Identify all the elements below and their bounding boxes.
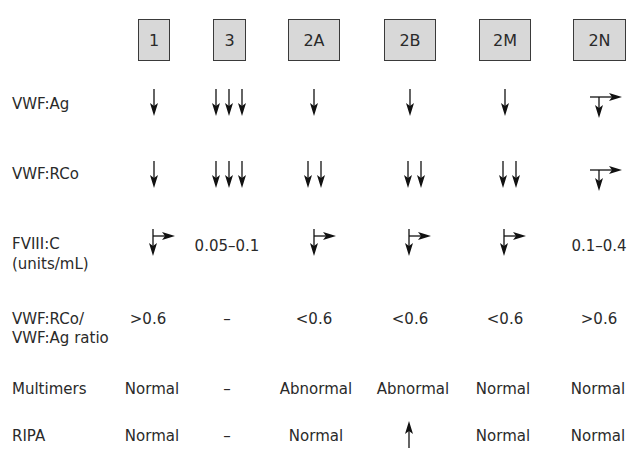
vwf-ag-type-1-decreased-icon [149,89,159,117]
multimers-type-3: – [223,380,231,399]
multimers-type-2b: Abnormal [377,380,449,399]
ratio-type-2a: <0.6 [296,310,332,329]
row-label-ripa: RIPA [12,427,45,446]
vwf-rco-type-2a-decreased-icon [303,161,327,189]
ripa-type-2b-increased-icon [404,421,414,449]
vwf-rco-type-2b-decreased-icon [403,161,427,189]
vwf-ag-type-3-markedly-decreased-icon [211,89,247,117]
header-type-2a: 2A [288,19,340,61]
ratio-type-2m: <0.6 [487,310,523,329]
vwf-ag-type-2b-decreased-icon [405,89,415,117]
row-label-ratio: VWF:RCo/ [12,310,84,329]
vwf-rco-type-1-decreased-icon [149,161,159,189]
row-label-vwf-rco: VWF:RCo [12,165,79,184]
header-type-3: 3 [213,19,246,61]
fviii-type-1-normal-or-decreased-icon [148,229,176,257]
row-label-vwf-ag: VWF:Ag [12,95,69,114]
ripa-type-3: – [223,427,231,446]
ripa-type-2m: Normal [476,427,530,446]
multimers-type-2n: Normal [571,380,625,399]
multimers-type-1: Normal [125,380,179,399]
vwf-ag-type-2n-normal-or-decreased-icon [590,92,624,120]
fviii-type-2b-normal-or-decreased-icon [404,229,432,257]
ratio-type-1: >0.6 [130,310,166,329]
fviii-type-2a-normal-or-decreased-icon [309,229,337,257]
row-label-ratio-2: VWF:Ag ratio [12,329,109,348]
header-type-1: 1 [138,19,170,61]
ratio-type-2b: <0.6 [392,310,428,329]
vwf-rco-type-2n-normal-or-decreased-icon [590,165,624,193]
fviii-type-3-value: 0.05–0.1 [195,237,260,256]
row-label-multimers: Multimers [12,380,87,399]
header-type-2m: 2M [479,19,531,61]
header-type-2n: 2N [573,19,626,61]
ripa-type-2n: Normal [571,427,625,446]
multimers-type-2m: Normal [476,380,530,399]
ripa-type-2a: Normal [289,427,343,446]
header-type-2b: 2B [384,19,436,61]
fviii-type-2n-value: 0.1–0.4 [571,237,626,256]
fviii-type-2m-normal-or-decreased-icon [499,229,527,257]
ratio-type-2n: >0.6 [581,310,617,329]
vwf-ag-type-2a-decreased-icon [309,89,319,117]
vwf-rco-type-3-markedly-decreased-icon [211,161,247,189]
row-label-fviii-c: FVIII:C [12,235,60,254]
ratio-type-3: – [223,310,231,329]
vwf-rco-type-2m-decreased-icon [498,161,522,189]
ripa-type-1: Normal [125,427,179,446]
row-label-fviii-units: (units/mL) [12,255,89,274]
multimers-type-2a: Abnormal [280,380,352,399]
vwf-ag-type-2m-decreased-icon [500,89,510,117]
